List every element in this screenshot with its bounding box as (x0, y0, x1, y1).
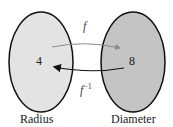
radius-value: 4 (36, 54, 42, 69)
forward-function-label: f (83, 19, 86, 34)
radius-label: Radius (20, 112, 53, 127)
inverse-function-label: f−1 (80, 82, 92, 98)
diameter-label: Diameter (111, 112, 156, 127)
diameter-value: 8 (129, 54, 135, 69)
mapping-diagram (0, 0, 173, 127)
inverse-function-exponent: −1 (83, 82, 92, 91)
